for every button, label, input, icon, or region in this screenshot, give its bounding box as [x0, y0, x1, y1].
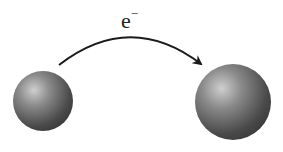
small-sphere [13, 71, 73, 131]
charge-superscript: − [131, 6, 138, 21]
arrow-curve [59, 37, 201, 65]
electron-transfer-diagram [0, 0, 283, 152]
electron-symbol: e [121, 8, 131, 33]
electron-label: e− [121, 8, 138, 34]
large-sphere [195, 64, 271, 140]
